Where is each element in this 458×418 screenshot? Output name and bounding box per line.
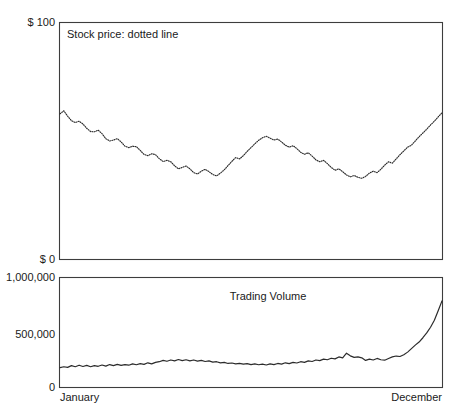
- trading-volume-series: [60, 301, 442, 368]
- chart-canvas: $ 100 $ 0 Stock price: dotted line 1,000…: [0, 0, 458, 418]
- volume-axis-bottom-label: 0: [49, 381, 55, 393]
- price-axis-top-label: $ 100: [27, 16, 55, 28]
- price-annotation-label: Stock price: dotted line: [67, 28, 178, 40]
- x-axis-start-label: January: [60, 391, 100, 403]
- stock-and-volume-figure: $ 100 $ 0 Stock price: dotted line 1,000…: [0, 0, 458, 418]
- x-axis-end-label: December: [391, 391, 442, 403]
- volume-annotation-label: Trading Volume: [230, 290, 307, 302]
- price-panel-frame: [60, 23, 443, 260]
- volume-axis-top-label: 1,000,000: [6, 271, 55, 283]
- price-axis-bottom-label: $ 0: [40, 253, 55, 265]
- stock-price-series: [60, 111, 442, 178]
- volume-axis-mid-label: 500,000: [15, 328, 55, 340]
